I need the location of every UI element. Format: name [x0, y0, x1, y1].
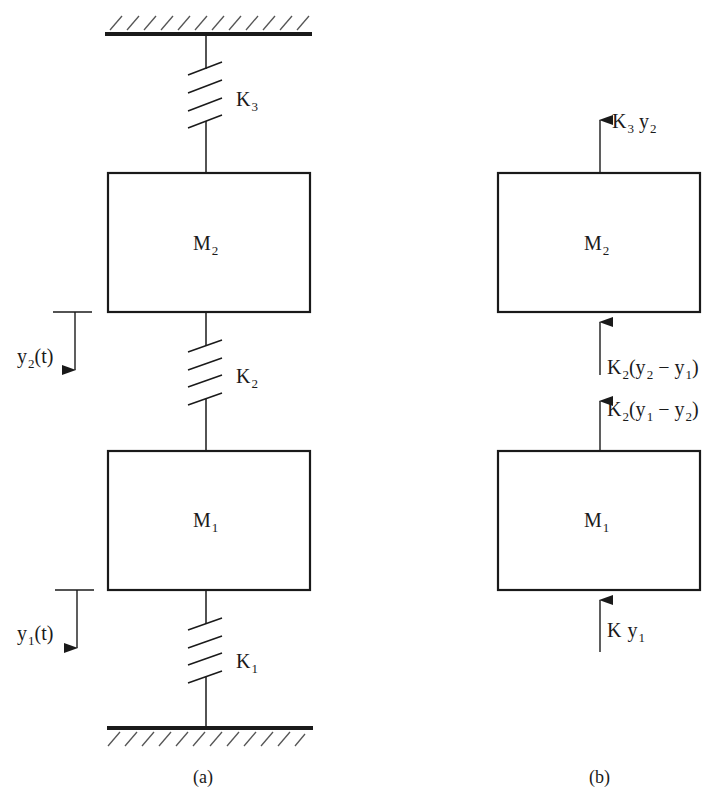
fbd-mass-m1-label: M1 — [584, 510, 609, 534]
caption-a: (a) — [193, 768, 213, 786]
displacement-y2-arrow — [53, 312, 92, 370]
spring-k3 — [188, 34, 222, 173]
spring-k2-label: K2 — [236, 366, 258, 390]
caption-b: (b) — [589, 768, 610, 786]
displacement-y1-arrow — [55, 590, 94, 648]
spring-k1-label: K1 — [236, 651, 258, 675]
displacement-y2-label: y2(t) — [17, 346, 53, 370]
mass-m1-label: M1 — [193, 510, 218, 534]
force-k3y2-label: K3 y2 — [612, 111, 656, 135]
top-ground — [105, 16, 312, 34]
mass-m2-label: M2 — [193, 233, 218, 257]
spring-k1 — [188, 590, 222, 728]
displacement-y1-label: y1(t) — [17, 623, 53, 647]
bottom-ground — [107, 728, 313, 746]
fbd-mass-m2-label: M2 — [584, 233, 609, 257]
force-k2-y2-y1-label: K2(y2 − y1) — [607, 357, 699, 381]
spring-k3-label: K3 — [236, 89, 258, 113]
force-ky1-label: K y1 — [607, 620, 645, 644]
spring-k2 — [188, 312, 222, 451]
force-k2-y1-y2-label: K2(y1 − y2) — [607, 399, 699, 423]
